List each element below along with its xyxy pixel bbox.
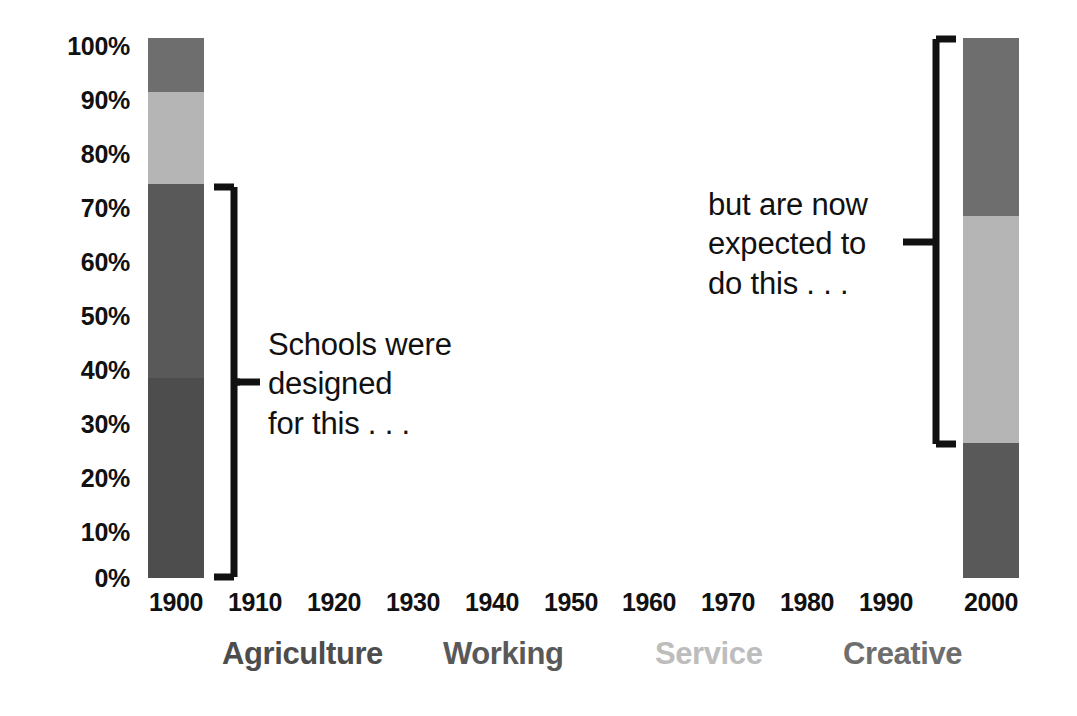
left-annotation-line-1: Schools were: [268, 327, 452, 362]
x-axis-tick-1950: 1950: [526, 588, 616, 617]
x-axis: 1900 1910 1920 1930 1940 1950 1960 1970 …: [0, 588, 1077, 628]
bar-1900: [148, 38, 204, 578]
bar-segment-2000-service: [963, 216, 1019, 443]
bar-segment-1900-working: [148, 184, 204, 378]
right-annotation-line-3: do this . . .: [708, 266, 848, 301]
x-axis-tick-1990: 1990: [841, 588, 931, 617]
x-axis-tick-1940: 1940: [447, 588, 537, 617]
x-axis-tick-2000: 2000: [946, 588, 1036, 617]
x-axis-tick-1970: 1970: [683, 588, 773, 617]
left-annotation-line-2: designed: [268, 366, 392, 401]
legend-item-service: Service: [655, 636, 763, 672]
bar-2000: [963, 38, 1019, 578]
x-axis-tick-1960: 1960: [604, 588, 694, 617]
bar-segment-1900-agriculture: [148, 378, 204, 578]
left-annotation-bracket-tick: [232, 378, 260, 386]
stacked-bar-chart: 100% 90% 80% 70% 60% 50% 40% 30% 20% 10%…: [0, 0, 1077, 716]
legend-item-working: Working: [443, 636, 564, 672]
left-annotation-line-3: for this . . .: [268, 406, 410, 441]
x-axis-tick-1980: 1980: [762, 588, 852, 617]
right-annotation-line-1: but are now: [708, 187, 868, 222]
bar-segment-2000-working: [963, 443, 1019, 578]
x-axis-tick-1920: 1920: [289, 588, 379, 617]
bar-segment-1900-creative: [148, 38, 204, 92]
bar-segment-2000-creative: [963, 38, 1019, 216]
left-annotation-text: Schools weredesignedfor this . . .: [268, 325, 528, 443]
right-annotation-line-2: expected to: [708, 226, 866, 261]
bar-segment-1900-service: [148, 92, 204, 184]
x-axis-tick-1900: 1900: [131, 588, 221, 617]
right-annotation-text: but are nowexpected todo this . . .: [708, 185, 938, 303]
x-axis-tick-1910: 1910: [210, 588, 300, 617]
legend-item-agriculture: Agriculture: [222, 636, 383, 672]
legend-item-creative: Creative: [843, 636, 962, 672]
x-axis-tick-1930: 1930: [368, 588, 458, 617]
chart-legend: Agriculture Working Service Creative: [0, 636, 1077, 682]
